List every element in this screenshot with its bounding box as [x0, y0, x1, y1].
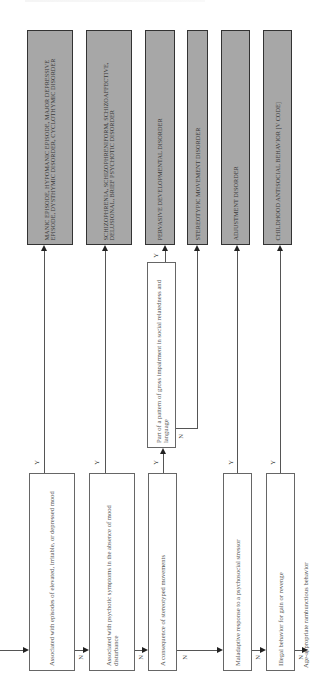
- arrow-up-icon: [41, 245, 47, 251]
- connector-n: [295, 650, 302, 651]
- decision-label: Illegal behavior for gain or revenge: [277, 478, 284, 666]
- decision-label: Associated with episodes of elevated, ir…: [48, 478, 55, 666]
- bleed-through-text: [25, 0, 205, 2]
- outcome-label: MANIC EPISODE, HYPOMANIC EPISODE, MAJOR …: [44, 35, 57, 240]
- outcome-label: ADJUSTMENT DISORDER: [232, 35, 238, 240]
- connector-n: [135, 650, 142, 651]
- yes-label: Y: [152, 253, 159, 258]
- arrow-up-icon: [102, 245, 108, 251]
- yes-label: Y: [227, 460, 234, 465]
- yes-label: Y: [152, 460, 159, 465]
- arrow-right-icon: [302, 647, 308, 653]
- yes-label: Y: [269, 460, 276, 465]
- connector-y: [280, 251, 281, 473]
- no-label: N: [254, 655, 261, 660]
- outcome-pervasive-developmental: PERVASIVE DEVELOPMENTAL DISORDER: [145, 30, 175, 245]
- outcome-mood-disorders: MANIC EPISODE, HYPOMANIC EPISODE, MAJOR …: [27, 30, 73, 245]
- arrow-up-icon: [234, 245, 240, 251]
- entry-connector: [0, 650, 23, 651]
- connector-n: [177, 650, 217, 651]
- decision-mood: Associated with episodes of elevated, ir…: [29, 473, 75, 671]
- yes-label: Y: [33, 460, 40, 465]
- decision-illegal-behavior: Illegal behavior for gain or revenge: [266, 473, 295, 671]
- decision-label: Part of a pattern of gross impairment in…: [154, 267, 169, 443]
- arrow-right-icon: [260, 647, 266, 653]
- arrow-right-icon: [83, 647, 89, 653]
- decision-psychosocial-stressor: Maladaptive response to a psychosocial s…: [223, 473, 252, 671]
- no-label: N: [181, 655, 188, 660]
- arrow-up-icon: [160, 448, 166, 454]
- outcome-adjustment: ADJUSTMENT DISORDER: [221, 30, 250, 245]
- arrow-up-icon: [277, 245, 283, 251]
- decision-psychotic: Associated with psychotic symptoms in th…: [89, 473, 135, 671]
- connector-n: [197, 251, 198, 429]
- arrow-right-icon: [142, 647, 148, 653]
- decision-label: Maladaptive response to a psychosocial s…: [234, 478, 241, 666]
- no-label: N: [297, 655, 304, 660]
- yes-label: Y: [93, 460, 100, 465]
- outcome-childhood-antisocial: CHILDHOOD ANTISOCIAL BEHAVIOR [V code]: [263, 30, 292, 245]
- arrow-right-icon: [217, 647, 223, 653]
- connector-y: [163, 454, 164, 473]
- outcome-label: PERVASIVE DEVELOPMENTAL DISORDER: [157, 35, 163, 240]
- connector-n: [252, 650, 260, 651]
- no-label: N: [177, 434, 184, 439]
- arrow-right-icon: [23, 647, 29, 653]
- no-label: N: [137, 655, 144, 660]
- outcome-stereotypic-movement: STEREOTYPIC MOVEMENT DISORDER: [187, 30, 208, 245]
- no-label: N: [77, 655, 84, 660]
- outcome-psychotic-disorders: SCHIZOPHRENIA, SCHIZOPHRENIFORM, SCHIZOA…: [86, 30, 132, 245]
- connector-n: [176, 428, 198, 429]
- outcome-label: SCHIZOPHRENIA, SCHIZOPHRENIFORM, SCHIZOA…: [103, 35, 116, 240]
- connector-y: [105, 251, 106, 473]
- connector-y: [165, 251, 166, 262]
- outcome-label: CHILDHOOD ANTISOCIAL BEHAVIOR [V code]: [274, 35, 280, 240]
- outcome-label: STEREOTYPIC MOVEMENT DISORDER: [194, 35, 200, 240]
- decision-stereotyped-movements: A consequence of stereotyped movements: [148, 473, 177, 671]
- connector-y: [44, 251, 45, 473]
- decision-label: Associated with psychotic symptoms in th…: [105, 478, 120, 666]
- arrow-up-icon: [162, 245, 168, 251]
- connector-n: [75, 650, 83, 651]
- decision-social-impairment: Part of a pattern of gross impairment in…: [147, 262, 176, 448]
- arrow-up-icon: [194, 245, 200, 251]
- connector-y: [237, 251, 238, 473]
- decision-label: A consequence of stereotyped movements: [159, 478, 166, 666]
